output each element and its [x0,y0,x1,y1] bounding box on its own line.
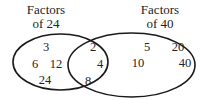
element-right-only: 20 [172,41,185,54]
set-label-line2: of 24 [22,17,70,31]
element-left-only: 24 [39,74,52,87]
element-left-only: 6 [32,58,38,71]
element-left-only: 3 [43,41,49,54]
element-intersection: 4 [97,58,103,71]
element-intersection: 2 [90,41,96,54]
element-right-only: 40 [179,57,192,70]
element-intersection: 8 [85,75,91,88]
element-right-only: 10 [132,57,145,70]
venn-diagram: Factors of 24 Factors of 40 3 6 12 24 2 … [0,0,212,100]
set-label-line1: Factors [22,3,70,17]
set-label-factors-of-40: Factors of 40 [136,3,184,31]
set-label-line2: of 40 [136,17,184,31]
element-left-only: 12 [50,58,63,71]
set-label-factors-of-24: Factors of 24 [22,3,70,31]
set-label-line1: Factors [136,3,184,17]
element-right-only: 5 [144,41,150,54]
